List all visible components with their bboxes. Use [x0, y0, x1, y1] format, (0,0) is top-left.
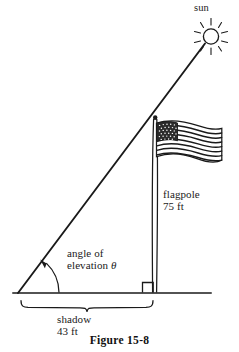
sun-label: sun	[194, 2, 209, 15]
american-flag-icon	[157, 121, 222, 162]
figure-15-8: sun flagpole 75 ft angle of elevation θ …	[0, 0, 239, 352]
shadow-brace	[21, 301, 153, 312]
flagpole-label: flagpole	[163, 188, 200, 201]
angle-of-elevation-label-line2: elevation θ	[67, 259, 117, 272]
right-angle-marker	[143, 283, 154, 293]
diagram-canvas	[0, 0, 239, 352]
flagpole-height-label: 75 ft	[163, 200, 184, 213]
flagpole-finial	[153, 115, 157, 119]
sun-icon	[195, 19, 228, 55]
shadow-label: shadow	[57, 313, 91, 326]
angle-word: elevation	[67, 259, 108, 271]
sun-ray-hypotenuse	[18, 44, 205, 294]
angle-of-elevation-label-line1: angle of	[67, 247, 104, 260]
theta-symbol: θ	[111, 259, 117, 271]
figure-caption: Figure 15-8	[0, 334, 239, 346]
angle-of-elevation-arc	[40, 260, 59, 293]
